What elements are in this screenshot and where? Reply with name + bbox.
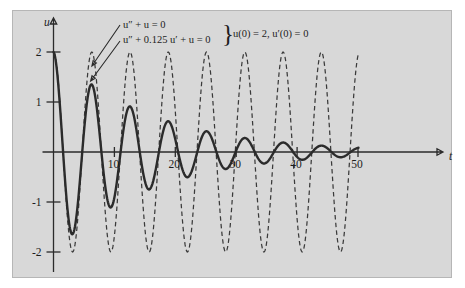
x-tick-label-30: 30: [229, 158, 241, 170]
damped-curve: [54, 52, 359, 234]
x-axis-label: t: [449, 150, 453, 162]
equation-undamped-label: u″ + u = 0: [123, 19, 165, 30]
x-tick-label-10: 10: [108, 158, 120, 170]
x-tick-label-40: 40: [290, 158, 302, 170]
y-tick-label-1: 1: [36, 96, 42, 108]
y-tick-label-2: 2: [36, 46, 42, 58]
chart-svg: 102030405021-1-2 t u u″ + u = 0 u″ + 0.1…: [0, 0, 465, 288]
x-tick-label-50: 50: [351, 158, 363, 170]
x-tick-label-20: 20: [169, 158, 181, 170]
initial-conditions-label: u(0) = 2, u′(0) = 0: [233, 28, 308, 40]
y-axis-label: u: [44, 16, 50, 28]
equation-damped-label: u″ + 0.125 u′ + u = 0: [123, 34, 210, 45]
y-tick-label--1: -1: [32, 196, 42, 208]
leader-lines: [91, 25, 120, 81]
figure-container: 102030405021-1-2 t u u″ + u = 0 u″ + 0.1…: [0, 0, 465, 288]
y-tick-label--2: -2: [32, 246, 42, 258]
